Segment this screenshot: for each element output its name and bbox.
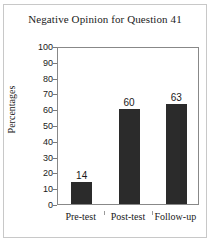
chart-figure: Negative Opinion for Question 41 Percent… [0, 0, 210, 242]
y-tick-mark [53, 158, 57, 159]
bar-value-label: 63 [156, 92, 196, 103]
y-tick-label: 10 [20, 185, 53, 194]
bar[interactable] [166, 104, 187, 204]
y-tick-label: 20 [20, 169, 53, 178]
x-tick-mark [104, 211, 105, 215]
x-tick-mark [152, 211, 153, 215]
x-tick-label: Follow-up [145, 211, 205, 222]
y-tick-mark [53, 110, 57, 111]
y-tick-label: 100 [20, 43, 53, 52]
y-tick-mark [53, 79, 57, 80]
y-tick-label: 80 [20, 75, 53, 84]
y-tick-label: 40 [20, 138, 53, 147]
y-axis-tick-labels: 0102030405060708090100 [20, 47, 53, 205]
y-tick-label: 0 [20, 201, 53, 210]
y-axis-title: Percentages [6, 80, 17, 140]
y-tick-label: 60 [20, 106, 53, 115]
plot-area: 146063 [57, 47, 199, 205]
y-tick-mark [53, 205, 57, 206]
chart-title: Negative Opinion for Question 41 [0, 13, 210, 25]
bar[interactable] [71, 182, 92, 204]
y-tick-mark [53, 142, 57, 143]
bar-value-label: 60 [109, 97, 149, 108]
bar[interactable] [119, 109, 140, 204]
bars-container: 146063 [58, 48, 198, 204]
y-tick-mark [53, 173, 57, 174]
bar-value-label: 14 [62, 170, 102, 181]
x-axis-tick-labels: Pre-testPost-testFollow-up [57, 211, 199, 227]
y-tick-mark [53, 63, 57, 64]
y-tick-label: 30 [20, 154, 53, 163]
y-tick-mark [53, 189, 57, 190]
y-tick-label: 90 [20, 59, 53, 68]
y-tick-label: 70 [20, 90, 53, 99]
y-tick-label: 50 [20, 122, 53, 131]
y-tick-mark [53, 47, 57, 48]
y-tick-mark [53, 94, 57, 95]
y-tick-mark [53, 126, 57, 127]
